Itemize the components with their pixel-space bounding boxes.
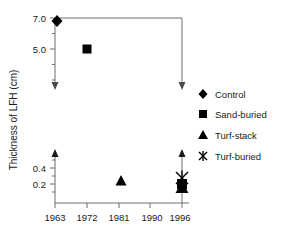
- legend-item-control: Control: [199, 89, 246, 100]
- y-axis-title: Thickness of LFH (cm): [8, 70, 19, 171]
- upper-right-break-arrow-icon: [179, 82, 186, 90]
- legend-label-turf-stack: Turf-stack: [215, 130, 257, 141]
- data-point-control-1963: [52, 15, 63, 27]
- xtick-label-1963: 1963: [44, 212, 65, 223]
- legend-label-control: Control: [215, 89, 246, 100]
- lower-right-break-arrow-icon: [179, 149, 186, 157]
- legend-item-turf-stack: Turf-stack: [198, 130, 257, 141]
- chart-figure: Thickness of LFH (cm) 7.0 5.0: [0, 0, 287, 242]
- xtick-label-1981: 1981: [108, 212, 129, 223]
- data-point-turf-stack-1981: [116, 175, 127, 186]
- upper-panel: 7.0 5.0: [33, 13, 186, 91]
- legend: Control Sand-buried Turf-stack Turf-buri…: [198, 89, 267, 162]
- data-point-sand-buried-1972: [83, 45, 92, 54]
- upper-ytick-label-2: 5.0: [33, 44, 46, 55]
- diamond-marker-icon: [199, 89, 208, 99]
- legend-label-sand-buried: Sand-buried: [215, 109, 267, 120]
- x-star-marker-icon: [199, 151, 207, 161]
- xtick-label-1972: 1972: [76, 212, 97, 223]
- square-marker-icon: [199, 110, 207, 118]
- lower-left-break-arrow-icon: [52, 149, 59, 157]
- scatter-plot: Thickness of LFH (cm) 7.0 5.0: [0, 0, 287, 242]
- lower-panel: 0.4 0.2 1963 1972 1981 1990 1996: [33, 149, 191, 223]
- upper-ytick-label-1: 7.0: [33, 13, 46, 24]
- triangle-marker-icon: [198, 130, 208, 139]
- legend-label-turf-buried: Turf-buried: [215, 151, 261, 162]
- lower-ytick-label-1: 0.4: [33, 163, 46, 174]
- data-point-sand-buried-1996: [177, 179, 187, 189]
- upper-left-break-arrow-icon: [52, 82, 59, 90]
- legend-item-turf-buried: Turf-buried: [199, 151, 261, 162]
- xtick-label-1990: 1990: [141, 212, 162, 223]
- legend-item-sand-buried: Sand-buried: [199, 109, 267, 120]
- lower-ytick-label-2: 0.2: [33, 179, 46, 190]
- xtick-label-1996: 1996: [169, 212, 190, 223]
